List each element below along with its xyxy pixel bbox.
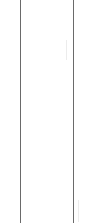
left-column-divider	[20, 0, 21, 223]
right-column-divider	[73, 0, 74, 223]
faint-artifact	[66, 40, 67, 60]
column-region	[0, 0, 93, 223]
faint-artifact	[78, 200, 79, 222]
